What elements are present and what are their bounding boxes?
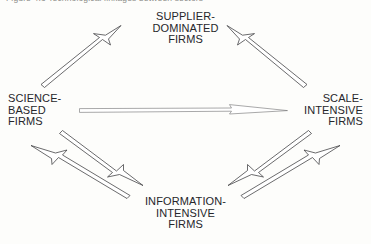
connector-scale-to-information xyxy=(228,131,312,186)
node-scale-intensive: SCALE- INTENSIVE FIRMS xyxy=(304,93,363,128)
connector-science-to-scale xyxy=(80,105,288,114)
node-science-based-line-1: SCIENCE- xyxy=(8,93,61,105)
technology-linkage-diagram: Figure 4.3 Technological linkages betwee… xyxy=(0,0,371,244)
node-supplier-dominated: SUPPLIER- DOMINATED FIRMS xyxy=(0,11,371,46)
node-supplier-dominated-line-1: SUPPLIER- xyxy=(0,11,371,23)
node-scale-intensive-line-3: FIRMS xyxy=(304,116,363,128)
node-science-based: SCIENCE- BASED FIRMS xyxy=(8,93,61,128)
node-scale-intensive-line-1: SCALE- xyxy=(304,93,363,105)
node-information-intensive-line-3: FIRMS xyxy=(0,219,371,231)
node-information-intensive-line-1: INFORMATION- xyxy=(0,196,371,208)
node-supplier-dominated-line-3: FIRMS xyxy=(0,34,371,46)
node-science-based-line-3: FIRMS xyxy=(8,116,61,128)
node-information-intensive: INFORMATION- INTENSIVE FIRMS xyxy=(0,196,371,231)
connector-science-to-information xyxy=(60,131,144,186)
